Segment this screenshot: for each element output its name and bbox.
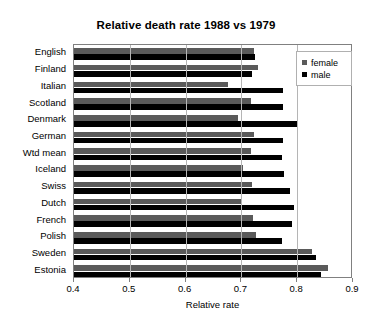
x-axis-tick-label: 0.9	[332, 283, 372, 294]
x-axis-tick	[185, 278, 186, 282]
x-axis-title: Relative rate	[73, 299, 352, 310]
legend-swatch-icon	[302, 72, 307, 77]
bar-chart: Relative death rate 1988 vs 1979 English…	[0, 0, 372, 329]
y-axis-tick-label: German	[0, 131, 66, 141]
bar-group	[74, 212, 351, 229]
y-axis-tick-label: English	[0, 47, 66, 57]
x-axis-tick-label: 0.6	[165, 283, 205, 294]
bar-group	[74, 95, 351, 112]
bar-female	[74, 232, 256, 238]
bar-female	[74, 82, 228, 88]
y-axis-tick-label: Iceland	[0, 164, 66, 174]
chart-legend: femalemale	[296, 51, 352, 86]
legend-item: male	[302, 69, 348, 80]
bar-male	[74, 205, 294, 211]
bar-group	[74, 145, 351, 162]
bar-female	[74, 215, 253, 221]
legend-label: female	[311, 58, 338, 68]
x-gridline	[130, 45, 131, 277]
x-axis-tick-label: 0.8	[276, 283, 316, 294]
bar-group	[74, 162, 351, 179]
y-axis-tick-label: Estonia	[0, 265, 66, 275]
bar-group	[74, 262, 351, 279]
x-gridline	[186, 45, 187, 277]
chart-title: Relative death rate 1988 vs 1979	[0, 19, 372, 31]
bar-group	[74, 229, 351, 246]
x-axis-tick	[296, 278, 297, 282]
bar-male	[74, 188, 290, 194]
y-axis-tick-label: French	[0, 215, 66, 225]
bar-male	[74, 171, 284, 177]
bar-female	[74, 132, 254, 138]
legend-swatch-icon	[302, 60, 307, 65]
bar-female	[74, 165, 243, 171]
y-axis-tick-label: Denmark	[0, 114, 66, 124]
bar-female	[74, 115, 238, 121]
bar-female	[74, 199, 242, 205]
bar-male	[74, 221, 292, 227]
y-axis-tick-label: Polish	[0, 231, 66, 241]
x-axis-tick	[129, 278, 130, 282]
bar-female	[74, 148, 251, 154]
bar-male	[74, 138, 283, 144]
bar-female	[74, 265, 328, 271]
y-axis-tick-label: Dutch	[0, 198, 66, 208]
bar-group	[74, 195, 351, 212]
bar-male	[74, 255, 316, 261]
x-axis-tick	[73, 278, 74, 282]
bar-male	[74, 238, 282, 244]
bar-male	[74, 272, 321, 278]
bar-group	[74, 179, 351, 196]
bar-male	[74, 88, 283, 94]
y-axis-tick-label: Swiss	[0, 181, 66, 191]
x-axis-tick	[240, 278, 241, 282]
bar-male	[74, 54, 255, 60]
bar-female	[74, 249, 312, 255]
y-axis-tick-label: Finland	[0, 64, 66, 74]
x-axis-tick-label: 0.4	[53, 283, 93, 294]
bar-group	[74, 129, 351, 146]
x-axis-tick-label: 0.5	[109, 283, 149, 294]
y-axis-tick-label: Italian	[0, 81, 66, 91]
bar-female	[74, 182, 252, 188]
x-axis-tick-label: 0.7	[220, 283, 260, 294]
bar-male	[74, 71, 252, 77]
bar-group	[74, 112, 351, 129]
bar-male	[74, 104, 283, 110]
bar-male	[74, 155, 282, 161]
y-axis-tick-label: Sweden	[0, 248, 66, 258]
bar-female	[74, 48, 254, 54]
y-axis-tick-label: Scotland	[0, 98, 66, 108]
y-axis-tick-labels: EnglishFinlandItalianScotlandDenmarkGerm…	[0, 44, 70, 278]
bar-female	[74, 98, 251, 104]
bar-female	[74, 65, 258, 71]
x-gridline	[241, 45, 242, 277]
bar-group	[74, 246, 351, 263]
legend-item: female	[302, 57, 348, 68]
legend-label: male	[311, 70, 331, 80]
x-axis-tick	[352, 278, 353, 282]
y-axis-tick-label: Wtd mean	[0, 148, 66, 158]
